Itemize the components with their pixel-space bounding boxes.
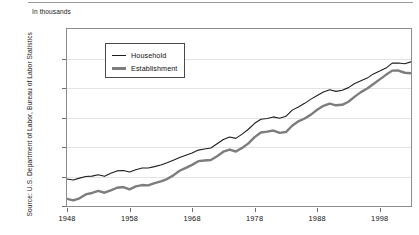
x-axis-tick-mark bbox=[192, 208, 193, 212]
units-label: In thousands bbox=[32, 8, 71, 15]
legend-label-establishment: Establishment bbox=[131, 64, 177, 73]
establishment-line-swatch-icon bbox=[112, 67, 126, 70]
header-divider bbox=[28, 2, 413, 3]
x-axis-tick-mark bbox=[255, 208, 256, 212]
chart-legend: Household Establishment bbox=[105, 43, 185, 78]
legend-item-establishment: Establishment bbox=[112, 64, 177, 73]
chart-figure: In thousands Source: U.S. Department of … bbox=[0, 0, 419, 235]
legend-item-household: Household bbox=[112, 51, 166, 60]
x-axis-tick-label: 1958 bbox=[121, 214, 138, 223]
x-axis-tick-mark bbox=[130, 208, 131, 212]
x-axis-tick-label: 1998 bbox=[371, 214, 388, 223]
x-axis-tick-mark bbox=[317, 208, 318, 212]
source-note: Source: U.S. Department of Labor, Bureau… bbox=[26, 7, 33, 217]
x-axis-tick-label: 1948 bbox=[58, 214, 75, 223]
x-axis-tick-label: 1978 bbox=[246, 214, 263, 223]
x-axis-tick-mark bbox=[380, 208, 381, 212]
legend-label-household: Household bbox=[131, 51, 166, 60]
x-axis-tick-label: 1968 bbox=[183, 214, 200, 223]
x-axis-tick-label: 1988 bbox=[309, 214, 326, 223]
establishment-line bbox=[67, 71, 411, 201]
household-line bbox=[67, 62, 411, 180]
x-axis-tick-mark bbox=[67, 208, 68, 212]
household-line-swatch-icon bbox=[112, 55, 126, 57]
